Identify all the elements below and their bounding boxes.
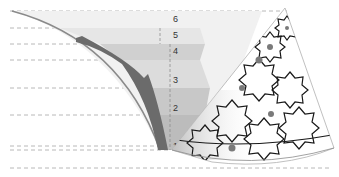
level-label-4: 4 xyxy=(173,46,178,56)
level-label-3: 3 xyxy=(173,75,178,85)
dome-section-diagram: 6 5 4 3 2 1 xyxy=(0,0,339,177)
level-label-6: 6 xyxy=(173,14,178,24)
level-label-5: 5 xyxy=(173,30,178,40)
level-label-2: 2 xyxy=(173,103,178,113)
